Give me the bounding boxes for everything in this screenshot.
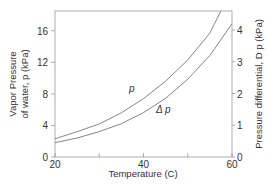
y2-tick-label: 0 [237, 152, 243, 163]
y2-tick-label: 1 [237, 120, 243, 131]
plot-frame [55, 11, 232, 157]
x-axis-title: Temperature (C) [108, 168, 177, 179]
curves [55, 11, 232, 143]
y-tick-label: 0 [42, 152, 48, 163]
y-tick-label: 4 [42, 120, 48, 131]
y2-tick-label: 3 [237, 57, 243, 68]
curve-label-p: p [128, 83, 135, 94]
y-tick-label: 16 [37, 26, 49, 37]
y-axis-title-line2: of water, p (kPa) [19, 49, 30, 118]
y-tick-label: 12 [37, 57, 49, 68]
curve-p [55, 11, 221, 139]
y2-axis-ticks: 01234 [232, 25, 243, 163]
y2-axis-title: Pressure differential, D p (kPa) [253, 19, 264, 149]
curve-delta-p [55, 24, 232, 143]
y2-tick-label: 4 [237, 25, 243, 36]
y-axis-ticks: 0481216 [37, 26, 55, 163]
y-tick-label: 8 [42, 89, 48, 100]
x-tick-label: 20 [49, 159, 61, 170]
y-axis-title-line1: Vapor Pressure [7, 51, 18, 116]
curve-label-delta-p: Δ p [155, 104, 171, 115]
y2-tick-label: 2 [237, 89, 243, 100]
vapor-pressure-chart: 204060 0481216 01234 p Δ p Temperature (… [0, 0, 269, 184]
